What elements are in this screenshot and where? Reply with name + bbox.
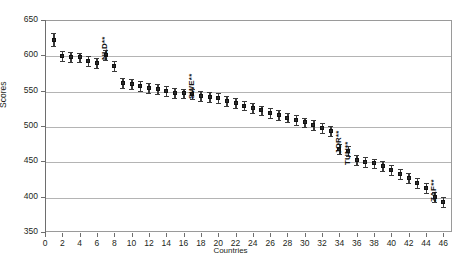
x-tick-26 — [270, 233, 271, 237]
data-point — [417, 0, 418, 1]
error-cap-upper — [164, 86, 169, 87]
point-marker — [138, 84, 142, 88]
error-cap-lower — [120, 88, 125, 89]
data-point — [322, 0, 323, 1]
y-tick-500 — [41, 126, 45, 127]
y-tick-600 — [41, 55, 45, 56]
error-cap-upper — [389, 165, 394, 166]
point-marker — [78, 55, 82, 59]
x-tick-32 — [322, 233, 323, 237]
y-tick-label-650: 650 — [0, 14, 38, 24]
data-point — [210, 0, 211, 1]
data-point — [435, 0, 436, 1]
data-point — [62, 0, 63, 1]
point-marker — [130, 82, 134, 86]
point-marker — [424, 186, 428, 190]
data-point — [305, 0, 306, 1]
error-cap-lower — [363, 167, 368, 168]
point-marker — [60, 54, 64, 58]
error-cap-upper — [233, 98, 238, 99]
data-point — [106, 0, 107, 1]
error-cap-lower — [77, 62, 82, 63]
error-cap-lower — [302, 127, 307, 128]
error-cap-lower — [372, 168, 377, 169]
error-cap-lower — [112, 71, 117, 72]
y-axis-line — [45, 20, 46, 233]
clipped-header-text — [0, 0, 160, 9]
x-tick-28 — [287, 233, 288, 237]
error-cap-upper — [129, 79, 134, 80]
data-point — [114, 0, 115, 1]
x-tick-22 — [236, 233, 237, 237]
error-cap-lower — [155, 94, 160, 95]
x-tick-36 — [357, 233, 358, 237]
data-point — [97, 0, 98, 1]
x-tick-30 — [305, 233, 306, 237]
point-marker — [225, 99, 229, 103]
error-cap-lower — [328, 136, 333, 137]
data-point — [227, 0, 228, 1]
error-cap-lower — [172, 98, 177, 99]
error-cap-lower — [129, 89, 134, 90]
error-cap-upper — [86, 56, 91, 57]
data-point — [71, 0, 72, 1]
error-cap-lower — [250, 113, 255, 114]
gridline-550 — [46, 92, 451, 93]
point-marker — [242, 104, 246, 108]
point-marker — [415, 181, 419, 185]
error-cap-lower — [406, 183, 411, 184]
error-cap-upper — [60, 51, 65, 52]
gridline-450 — [46, 162, 451, 163]
point-marker — [372, 161, 376, 165]
point-marker — [303, 120, 307, 124]
error-cap-upper — [398, 169, 403, 170]
error-cap-upper — [216, 93, 221, 94]
x-tick-10 — [132, 233, 133, 237]
data-point — [365, 0, 366, 1]
x-tick-14 — [166, 233, 167, 237]
x-tick-0 — [45, 233, 46, 237]
error-cap-lower — [190, 99, 195, 100]
error-cap-upper — [77, 53, 82, 54]
data-point — [426, 0, 427, 1]
error-cap-lower — [441, 207, 446, 208]
data-point — [166, 0, 167, 1]
error-cap-upper — [380, 161, 385, 162]
point-label-SWE: SWE** — [187, 74, 196, 99]
error-cap-lower — [224, 106, 229, 107]
data-point — [88, 0, 89, 1]
gridline-500 — [46, 127, 451, 128]
point-marker — [251, 106, 255, 110]
error-cap-lower — [354, 165, 359, 166]
point-marker — [381, 164, 385, 168]
x-tick-34 — [339, 233, 340, 237]
data-point — [253, 0, 254, 1]
data-point — [400, 0, 401, 1]
error-cap-upper — [415, 178, 420, 179]
data-point — [244, 0, 245, 1]
error-cap-upper — [68, 52, 73, 53]
data-point — [287, 0, 288, 1]
error-cap-upper — [94, 58, 99, 59]
error-cap-upper — [285, 113, 290, 114]
point-marker — [95, 61, 99, 65]
error-cap-upper — [198, 91, 203, 92]
error-cap-lower — [181, 98, 186, 99]
error-cap-lower — [268, 118, 273, 119]
data-point — [80, 0, 81, 1]
point-marker — [285, 116, 289, 120]
error-cap-upper — [294, 115, 299, 116]
data-point — [218, 0, 219, 1]
point-marker — [208, 95, 212, 99]
error-cap-lower — [68, 62, 73, 63]
error-cap-upper — [146, 83, 151, 84]
error-cap-lower — [138, 91, 143, 92]
data-point — [374, 0, 375, 1]
point-marker — [52, 38, 56, 42]
data-point — [313, 0, 314, 1]
point-marker — [277, 113, 281, 117]
point-marker — [355, 158, 359, 162]
y-tick-label-350: 350 — [0, 226, 38, 236]
data-point — [348, 0, 349, 1]
point-marker — [216, 96, 220, 100]
